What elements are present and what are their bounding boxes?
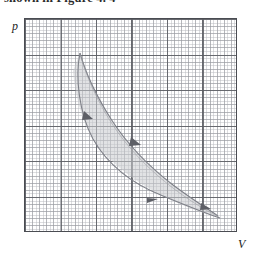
- cycle-direction-arrow-upper: [129, 137, 141, 146]
- y-axis-label-pressure: p: [12, 20, 18, 32]
- enclosed-cycle-area: [73, 53, 218, 216]
- cycle-direction-arrow-right: [200, 203, 211, 210]
- x-axis-label-volume: V: [238, 238, 245, 250]
- cycle-direction-arrow-bottom: [147, 198, 158, 203]
- graph-paper-plot-area: [24, 18, 237, 232]
- pressure-volume-figure: p V: [0, 0, 255, 256]
- curves-layer: [25, 19, 238, 233]
